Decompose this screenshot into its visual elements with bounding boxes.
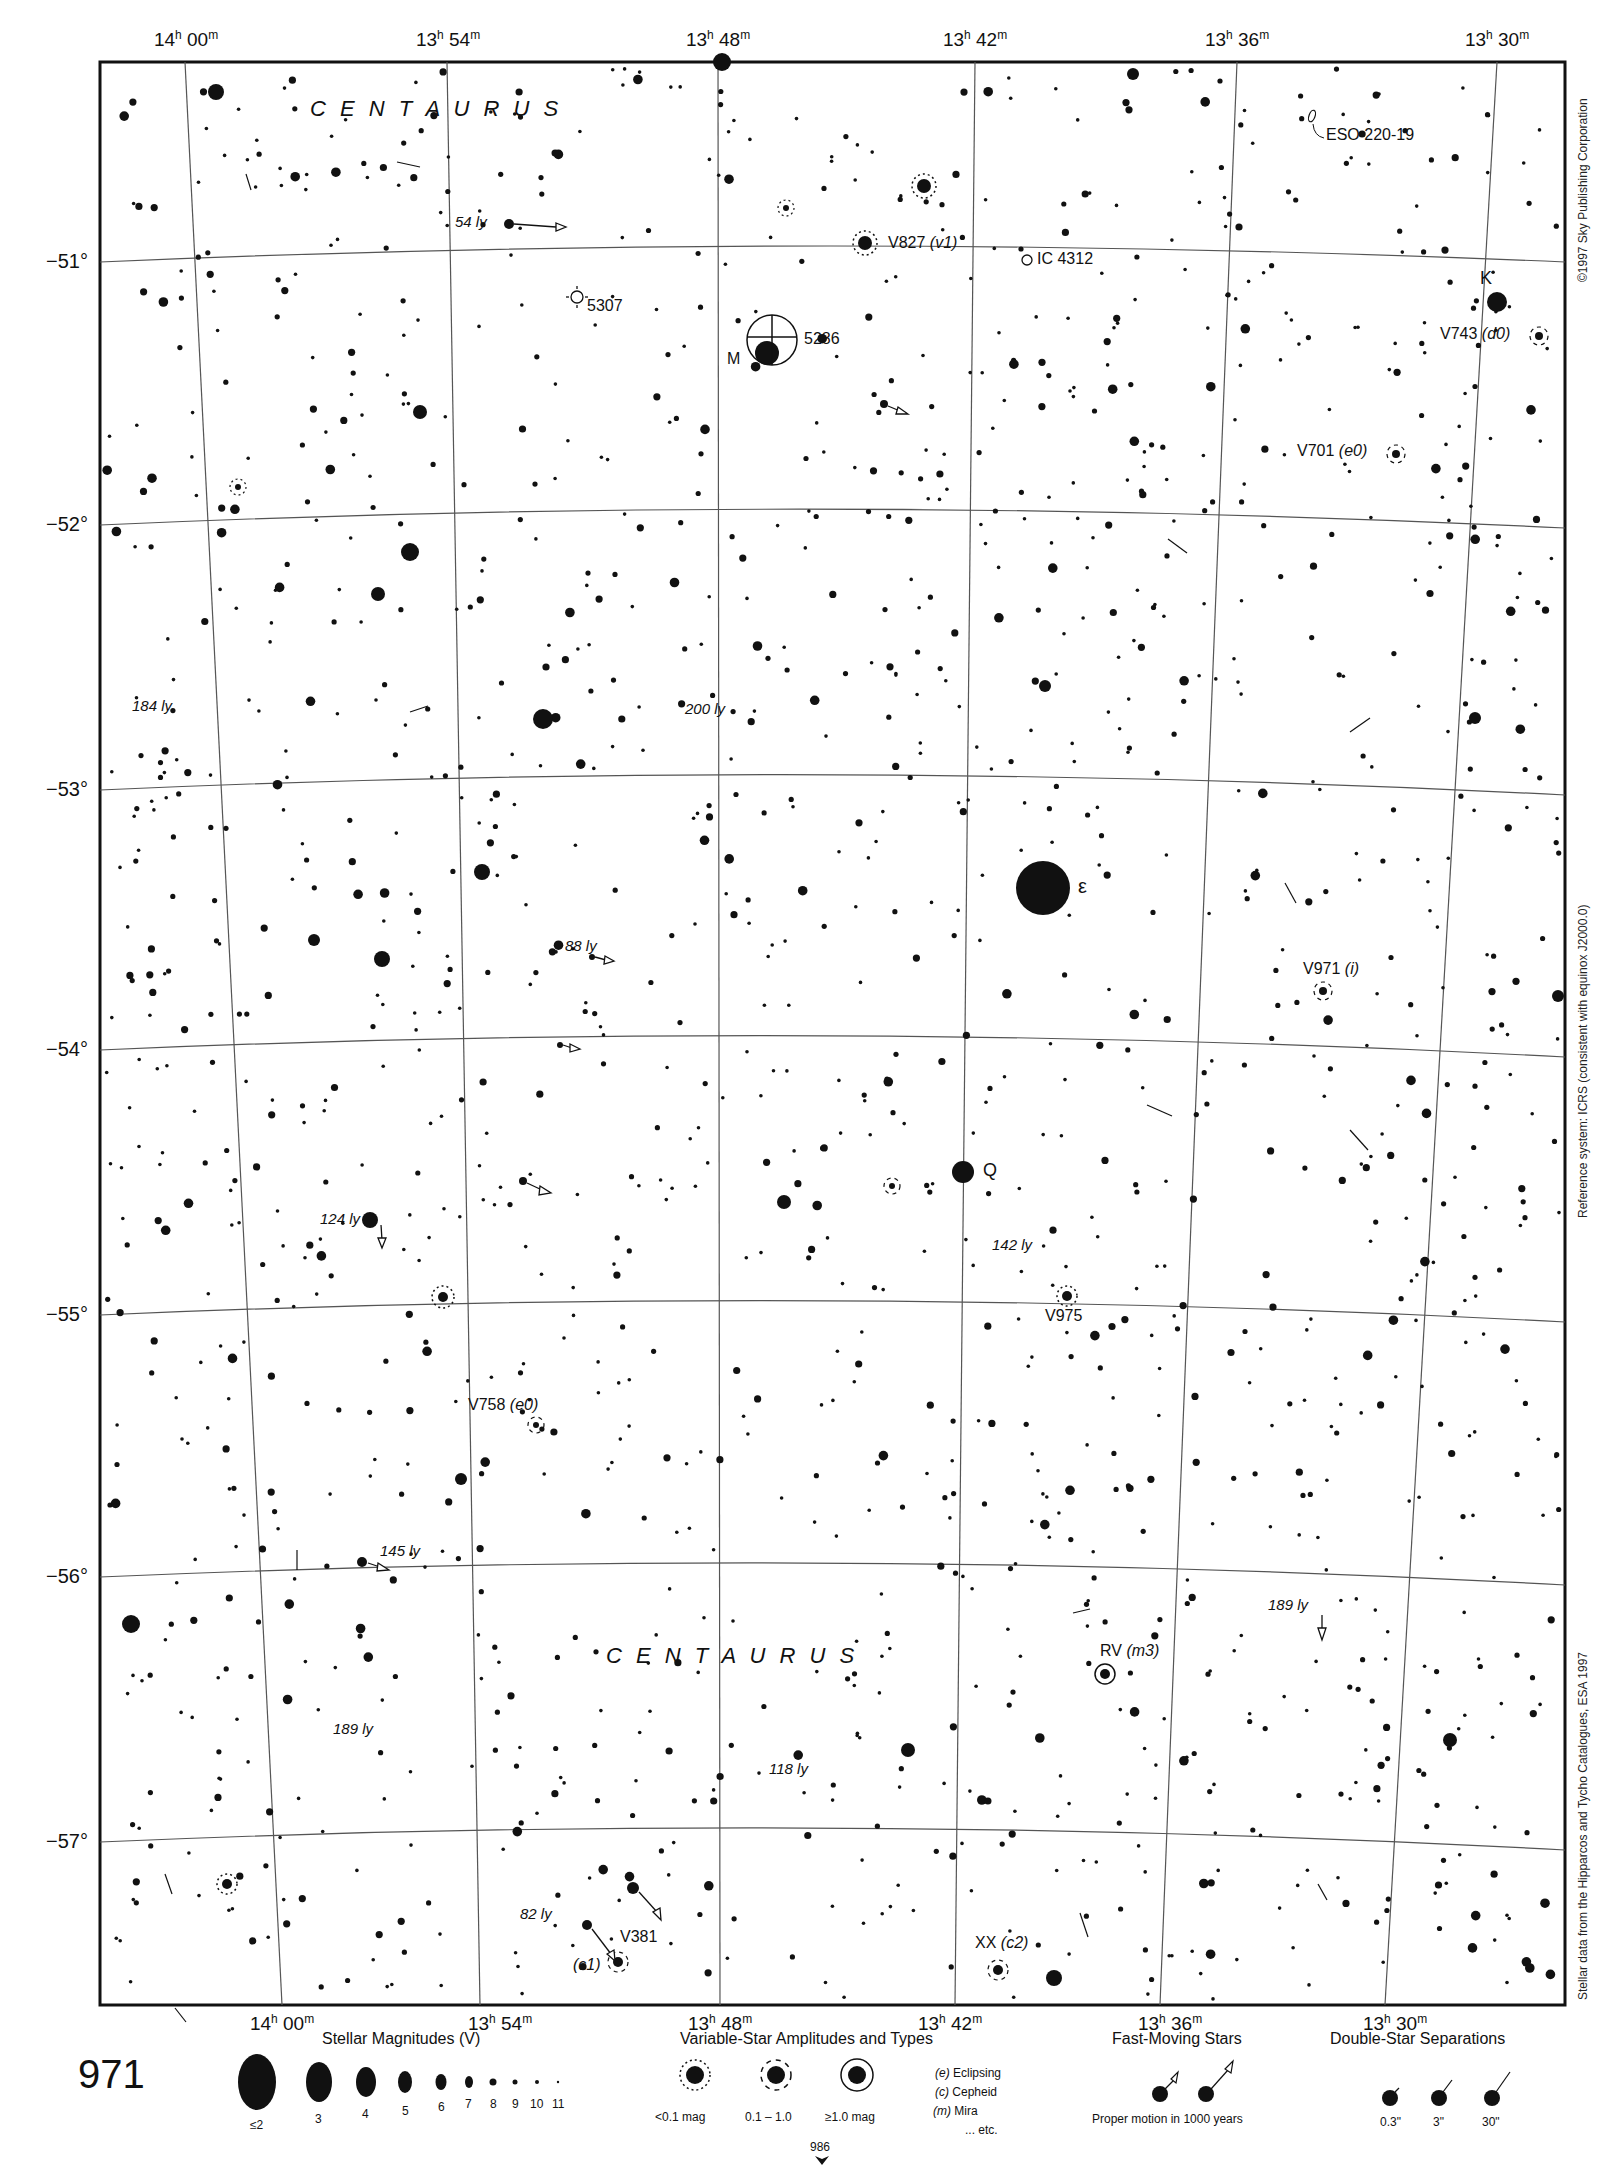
distance-label: 189 ly [333,1720,373,1737]
page-number: 971 [78,2052,145,2097]
legend-mag-label: ≤2 [250,2118,263,2132]
legend-type-item: ... etc. [965,2123,998,2137]
distance-label: 200 ly [685,700,725,717]
label-star-k: K [1480,268,1492,289]
label-star-q: Q [983,1160,997,1181]
planetary-nebula-ngc5307 [566,286,588,308]
ra-label-top: 13h 42m [943,28,1007,51]
legend-variable-symbols [670,2055,930,2095]
label-ic4312: IC 4312 [1037,250,1093,268]
star-field [102,67,1561,2001]
ra-label-top: 14h 00m [154,28,218,51]
legend-amplitude-label: <0.1 mag [655,2110,705,2124]
legend-mag-label: 5 [402,2104,409,2118]
dec-label: −53° [18,778,88,801]
legend-double-symbols [1370,2068,1530,2118]
star-k [1487,292,1507,312]
next-page-arrow-icon [815,2156,829,2166]
distance-label: 184 ly [132,697,172,714]
dec-label: −55° [18,1303,88,1326]
distance-label: 54 ly [455,213,487,230]
next-page-reference: 986 [810,2140,830,2154]
ra-label-top: 13h 30m [1465,28,1529,51]
copyright-text: ©1997 Sky Publishing Corporation [1576,98,1590,282]
label-v758: V758 (e0) [468,1396,538,1414]
legend-amplitude-label: ≥1.0 mag [825,2110,875,2124]
legend-type-item: (e) Eclipsing [935,2066,1001,2080]
legend-mag-label: 10 [530,2097,543,2111]
distance-label: 118 ly [769,1760,808,1777]
distance-label: 124 ly [320,1210,360,1227]
star-map [0,0,1624,2182]
right-ascension-grid [185,62,1497,2005]
legend-double-label: 30" [1482,2115,1500,2129]
label-v701: V701 (e0) [1297,442,1367,460]
legend-mag-label: 11 [552,2097,564,2111]
legend-double-label: 0.3" [1380,2115,1401,2129]
label-ngc5307: 5307 [587,297,623,315]
ra-label-top: 13h 48m [686,28,750,51]
legend-mag-label: 7 [465,2097,472,2111]
legend-mag-label: 4 [362,2107,369,2121]
legend-mag-label: 8 [490,2097,497,2111]
dec-label: −51° [18,250,88,273]
label-epsilon: ε [1078,875,1087,898]
distance-label: 142 ly [992,1236,1032,1253]
distance-label: 189 ly [1268,1596,1308,1613]
label-v381-type: (c1) [573,1956,601,1974]
label-v971: V971 (i) [1303,960,1359,978]
constellation-label-bottom: C E N T A U R U S [606,1643,858,1669]
legend-magnitudes-title: Stellar Magnitudes (V) [322,2030,480,2048]
legend-magnitude-dots [225,2052,625,2112]
legend-doubles-title: Double-Star Separations [1330,2030,1505,2048]
notable-stars [122,53,1564,1986]
ra-label-top: 13h 36m [1205,28,1269,51]
proper-motion-arrows [357,219,1326,1961]
star-q [952,1161,974,1183]
legend-double-label: 3" [1433,2115,1444,2129]
ra-label-bottom: 14h 00m [250,2012,314,2035]
label-star-m: M [727,350,740,368]
legend-mag-label: 6 [438,2100,445,2114]
dec-label: −57° [18,1830,88,1853]
open-cluster-ic4312 [1022,255,1032,265]
label-eso-220-19: ESO 220-19 [1326,126,1414,144]
epsilon-centauri [1016,861,1070,915]
legend-type-item: (m) Mira [933,2104,978,2118]
legend-mag-label: 3 [315,2112,322,2126]
legend-fast-moving-symbols [1140,2058,1260,2118]
declination-grid [100,246,1565,1850]
label-v975: V975 [1045,1307,1082,1325]
ra-label-top: 13h 54m [416,28,480,51]
chart-frame [100,62,1565,2005]
legend-mag-label: 9 [512,2097,519,2111]
distance-label: 82 ly [520,1905,552,1922]
legend-fast-moving-caption: Proper motion in 1000 years [1092,2112,1243,2126]
legend-type-item: (c) Cepheid [935,2085,997,2099]
galaxy-eso-220-19 [1307,109,1317,122]
label-v827: V827 (v1) [888,234,957,252]
label-xx: XX (c2) [975,1934,1028,1952]
dec-label: −52° [18,513,88,536]
label-v381: V381 [620,1928,657,1946]
distance-label: 145 ly [380,1542,420,1559]
label-rv: RV (m3) [1100,1642,1159,1660]
dec-label: −54° [18,1038,88,1061]
globular-cluster-ngc5286 [747,315,797,365]
dec-label: −56° [18,1565,88,1588]
legend-fast-moving-title: Fast-Moving Stars [1112,2030,1242,2048]
label-ngc5286: 5286 [804,330,840,348]
legend-variables-title: Variable-Star Amplitudes and Types [680,2030,933,2048]
legend-amplitude-label: 0.1 – 1.0 [745,2110,792,2124]
reference-system-text: Reference system: ICRS (consistent with … [1576,905,1590,1218]
double-star-ticks [165,162,1370,2022]
star-atlas-chart: 14h 00m 13h 54m 13h 48m 13h 42m 13h 36m … [0,0,1624,2182]
label-v743: V743 (d0) [1440,325,1510,343]
constellation-label-top: C E N T A U R U S [310,96,562,122]
data-source-text: Stellar data from the Hipparcos and Tych… [1576,1652,1590,2000]
distance-label: 88 ly [565,937,597,954]
